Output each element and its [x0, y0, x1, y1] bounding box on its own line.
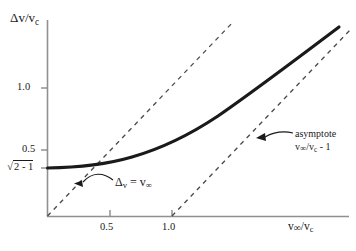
annotation-dv-equals: = v	[127, 175, 146, 189]
annotation-dv-equals-vinf-label: Δv = v∞	[115, 176, 152, 190]
plot-area	[0, 0, 356, 251]
annotation-asymptote-label: asymptote v∞/vc - 1	[295, 128, 336, 155]
y-axis-title-v: v/v	[18, 10, 35, 25]
y-tick-label-1.0: 1.0	[17, 81, 30, 92]
x-tick-label-1.0: 1.0	[162, 221, 175, 232]
annotation-dv-arrowhead	[74, 181, 83, 188]
x-tick-label-0.5: 0.5	[100, 221, 113, 232]
x-axis-title-slash-v: /v	[301, 220, 310, 232]
x-axis-title: v∞/vc	[288, 220, 313, 235]
annotation-asymptote-slash-v: /v	[306, 141, 314, 152]
annotation-asymptote-tail: - 1	[317, 141, 330, 152]
annotation-asymptote-arrowhead	[256, 133, 266, 141]
y-axis-title-subscript: c	[35, 17, 39, 27]
y-tick-label-0.5: 0.5	[22, 143, 35, 154]
annotation-dv-infinity: ∞	[146, 180, 152, 190]
x-axis-title-subscript: c	[310, 225, 314, 234]
x-axis-title-infinity: ∞	[294, 222, 301, 233]
chart-figure: Δv/vc v∞/vc 1.0 0.5 √2 - 1 0.5 1.0 Δv = …	[0, 0, 356, 251]
annotation-asymptote-word: asymptote	[295, 128, 336, 141]
annotation-dv-delta: Δ	[115, 175, 123, 189]
annotation-asymptote-formula: v∞/vc - 1	[295, 141, 336, 155]
y-tick-label-sqrt2-minus-1: √2 - 1	[7, 161, 33, 173]
annotation-asymptote-arrow-curve	[265, 132, 293, 137]
radicand-expression: 2 - 1	[13, 160, 33, 172]
annotation-dv-arrow-curve	[83, 174, 113, 182]
y-axis-title: Δv/vc	[10, 11, 39, 27]
